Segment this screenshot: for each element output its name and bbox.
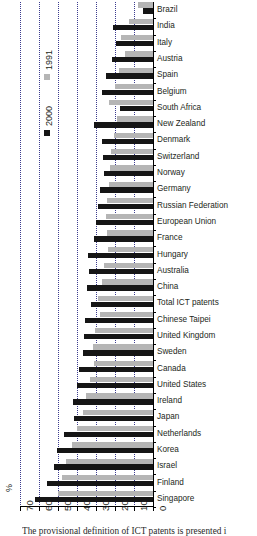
category-label: Norway: [157, 168, 185, 177]
legend-swatch-1991: [44, 74, 50, 80]
category-label: Finland: [157, 478, 184, 487]
bar-row: [20, 377, 153, 390]
x-tick-label-70: 70: [24, 485, 35, 511]
category-label: South Africa: [157, 103, 201, 112]
axis-title-percent: %: [4, 484, 14, 492]
category-tick: [153, 214, 156, 215]
bar-row: [20, 100, 153, 113]
category-label: China: [157, 282, 178, 291]
bar-row: [20, 246, 153, 259]
category-tick: [153, 458, 156, 459]
category-label: Canada: [157, 364, 186, 373]
bar-1991: [121, 35, 153, 40]
bar-row: [20, 35, 153, 48]
category-tick: [153, 442, 156, 443]
category-tick: [153, 279, 156, 280]
x-tick-10: [134, 507, 135, 511]
bar-1991: [90, 377, 153, 382]
legend-label-1991: 1991: [44, 50, 54, 70]
category-label: Japan: [157, 412, 179, 421]
bar-2000: [120, 106, 153, 111]
bar-row: [20, 132, 153, 145]
category-tick: [153, 132, 156, 133]
bar-2000: [100, 187, 153, 192]
category-label: United States: [157, 380, 206, 389]
category-tick: [153, 100, 156, 101]
category-label: Singapore: [157, 494, 194, 503]
category-label: France: [157, 233, 182, 242]
bar-2000: [96, 220, 153, 225]
bar-2000: [64, 432, 153, 437]
bar-row: [20, 426, 153, 439]
category-label: Switzerland: [157, 152, 199, 161]
category-label: Ireland: [157, 396, 182, 405]
category-tick: [153, 474, 156, 475]
bar-1991: [62, 475, 153, 480]
gridline-0: [153, 2, 155, 507]
bar-row: [20, 295, 153, 308]
x-tick-60: [39, 507, 40, 511]
category-tick: [153, 377, 156, 378]
bar-2000: [113, 25, 153, 30]
bar-2000: [94, 122, 153, 127]
bar-2000: [112, 57, 153, 62]
bar-2000: [143, 8, 153, 13]
bar-row: [20, 393, 153, 406]
bar-1991: [86, 393, 153, 398]
bar-1991: [110, 165, 153, 170]
category-label: Chinese Taipei: [157, 315, 211, 324]
category-label: New Zealand: [157, 119, 205, 128]
bar-1991: [115, 84, 153, 89]
bar-row: [20, 2, 153, 15]
bar-1991: [117, 116, 153, 121]
category-label: Israel: [157, 461, 177, 470]
category-label: Belgium: [157, 87, 187, 96]
bar-2000: [103, 155, 153, 160]
x-tick-label-10: 10: [138, 485, 149, 511]
x-tick-70: [20, 507, 21, 511]
bar-2000: [84, 334, 153, 339]
x-tick-label-20: 20: [119, 485, 130, 511]
bar-row: [20, 67, 153, 80]
category-label: Total ICT patents: [157, 298, 219, 307]
bar-row: [20, 197, 153, 210]
bar-row: [20, 18, 153, 31]
bar-row: [20, 458, 153, 471]
category-tick: [153, 67, 156, 68]
bar-2000: [91, 302, 153, 307]
category-tick: [153, 507, 156, 508]
bar-2000: [104, 171, 153, 176]
bar-row: [20, 360, 153, 373]
bar-1991: [102, 279, 153, 284]
x-tick-40: [77, 507, 78, 511]
bar-1991: [100, 312, 153, 317]
bar-2000: [74, 416, 153, 421]
category-label: Korea: [157, 445, 179, 454]
category-tick: [153, 328, 156, 329]
bar-row: [20, 279, 153, 292]
category-tick: [153, 18, 156, 19]
bar-row: [20, 328, 153, 341]
bar-2000: [94, 236, 153, 241]
plot-area: [20, 2, 153, 507]
category-label: India: [157, 21, 175, 30]
category-tick: [153, 295, 156, 296]
bar-2000: [88, 253, 153, 258]
category-label: Hungary: [157, 250, 188, 259]
ict-patents-bar-chart: 706050403020100 BrazilIndiaItalyAustriaS…: [0, 0, 257, 536]
bar-row: [20, 344, 153, 357]
category-tick: [153, 426, 156, 427]
bar-2000: [79, 367, 153, 372]
bar-1991: [83, 410, 153, 415]
x-tick-50: [58, 507, 59, 511]
bar-1991: [106, 214, 153, 219]
bar-1991: [94, 361, 153, 366]
category-tick: [153, 491, 156, 492]
bar-2000: [57, 448, 153, 453]
category-label: Germany: [157, 184, 191, 193]
legend-swatch-2000: [44, 130, 50, 136]
category-label: United Kingdom: [157, 331, 215, 340]
category-label: Sweden: [157, 347, 187, 356]
bar-2000: [83, 350, 153, 355]
figure-caption: The provisional definition of ICT patent…: [22, 526, 257, 536]
